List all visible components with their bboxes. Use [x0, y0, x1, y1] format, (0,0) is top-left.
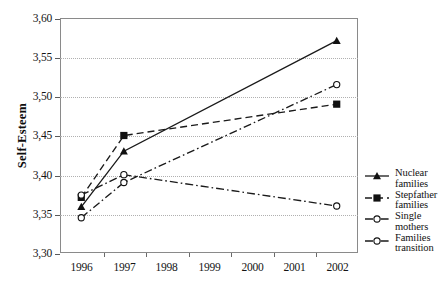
data-point-marker [120, 132, 127, 139]
data-point-marker [333, 101, 340, 108]
legend-item-3[interactable]: Singlemothers [364, 211, 428, 232]
legend-key-icon [364, 213, 390, 225]
series-3 [78, 81, 340, 220]
series-2 [78, 101, 341, 201]
legend-item-1[interactable]: Nuclearfamilies [364, 168, 428, 189]
data-point-marker [373, 194, 380, 201]
data-point-marker [333, 37, 341, 44]
data-point-marker [121, 172, 127, 178]
legend-item-label: Nuclearfamilies [395, 168, 428, 189]
legend-key-icon [364, 235, 390, 247]
legend-label-line1: Nuclear [395, 168, 428, 179]
data-point-marker [78, 192, 84, 198]
data-point-marker [334, 81, 340, 87]
series-line [81, 104, 336, 197]
legend-item-4[interactable]: Familiestransition [364, 233, 434, 254]
series-line [81, 175, 336, 206]
legend-label-line2: families [395, 179, 428, 190]
series-4 [78, 172, 340, 210]
chart-figure: Self-Esteem 3,603,553,503,453,403,353,30… [0, 0, 438, 286]
data-point-marker [334, 203, 340, 209]
legend-label-line2: families [395, 200, 437, 211]
legend-label-line1: Single [395, 211, 428, 222]
legend-marker-filled-triangle-icon [364, 168, 390, 180]
legend-marker-filled-square-icon [364, 190, 390, 202]
data-point-marker [374, 237, 380, 243]
legend-item-2[interactable]: Stepfatherfamilies [364, 190, 437, 211]
legend-item-label: Singlemothers [395, 211, 428, 232]
data-point-marker [121, 179, 127, 185]
data-point-marker [78, 215, 84, 221]
legend-key-icon [364, 170, 390, 182]
legend-label-line2: transition [395, 243, 434, 254]
legend-marker-open-circle-icon [364, 211, 390, 223]
legend-item-label: Stepfatherfamilies [395, 190, 437, 211]
legend-label-line2: mothers [395, 222, 428, 233]
series-1 [77, 37, 340, 210]
series-line [81, 41, 336, 207]
chart-legend: NuclearfamiliesStepfatherfamiliesSinglem… [364, 0, 436, 286]
legend-marker-open-circle-icon [364, 233, 390, 245]
series-line [81, 85, 336, 218]
legend-item-label: Familiestransition [395, 233, 434, 254]
data-point-marker [374, 216, 380, 222]
legend-key-icon [364, 192, 390, 204]
data-point-marker [120, 147, 128, 154]
